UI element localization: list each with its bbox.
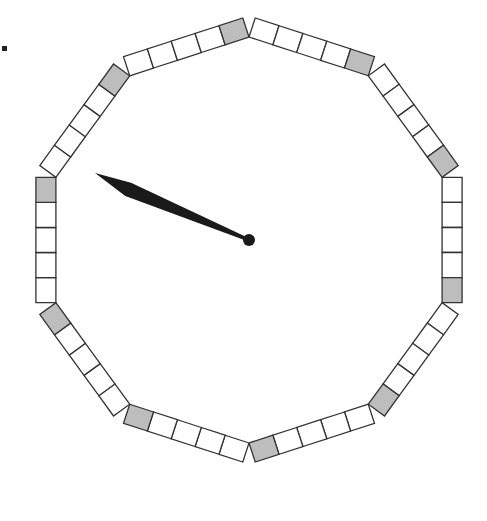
- marker-dot: [2, 46, 7, 51]
- dial-box: [442, 228, 462, 253]
- dial-box: [36, 278, 56, 303]
- dial-figure: [0, 0, 487, 521]
- dial-box: [442, 202, 462, 227]
- shaded-box: [249, 435, 279, 462]
- shaded-box: [442, 278, 462, 303]
- dial-hand: [95, 173, 250, 241]
- dial-box: [442, 253, 462, 278]
- shaded-box: [345, 49, 375, 76]
- dial-box: [36, 253, 56, 278]
- dial-box: [442, 177, 462, 202]
- hand-pivot: [243, 234, 255, 246]
- dial-box: [36, 228, 56, 253]
- dial-box: [36, 202, 56, 227]
- shaded-box: [124, 404, 154, 431]
- shaded-box: [219, 18, 249, 45]
- shaded-box: [36, 177, 56, 202]
